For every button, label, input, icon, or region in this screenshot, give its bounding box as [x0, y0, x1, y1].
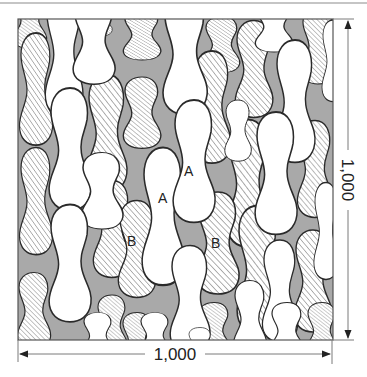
vertical-dimension-label: 1,000	[338, 159, 357, 202]
arrow-left-icon	[19, 351, 28, 358]
label-a-lower: A	[158, 190, 168, 206]
label-b-left: B	[127, 233, 136, 249]
microstructure-diagram: A A B B 1,000 1,000	[0, 0, 367, 377]
arrow-right-icon	[322, 351, 331, 358]
horizontal-dimension-label: 1,000	[154, 345, 197, 364]
label-b-right: B	[211, 235, 220, 251]
pattern-area	[14, 0, 345, 369]
arrow-down-icon	[345, 330, 352, 339]
label-a-upper: A	[184, 163, 194, 179]
arrow-up-icon	[345, 20, 352, 29]
